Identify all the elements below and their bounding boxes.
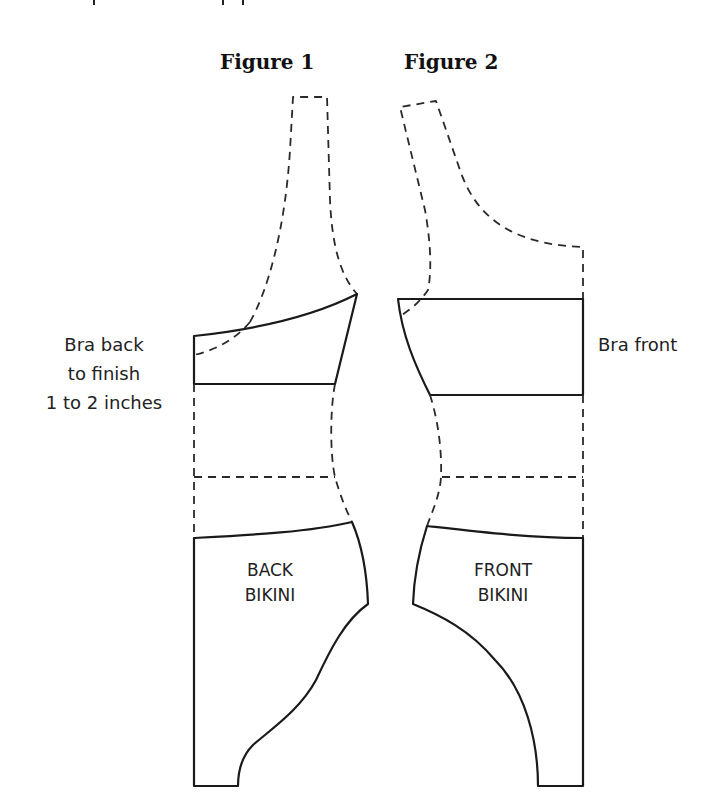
- front-bikini-label-line-1: FRONT: [458, 558, 548, 583]
- bra-back-label: Bra back to finish 1 to 2 inches: [34, 330, 174, 417]
- front-bikini-label-line-2: BIKINI: [458, 583, 548, 608]
- front-bikini-label: FRONT BIKINI: [458, 558, 548, 608]
- back-midsection-right: [331, 384, 352, 522]
- figure-1-title: Figure 1: [220, 50, 314, 74]
- figure-2-drawing: [398, 101, 583, 786]
- front-midsection-left: [427, 395, 441, 526]
- bra-back-label-line-1: Bra back: [34, 330, 174, 359]
- front-strap-outline: [400, 101, 583, 316]
- bra-front-label-line-1: Bra front: [598, 330, 677, 359]
- bra-back-label-line-3: 1 to 2 inches: [34, 388, 174, 417]
- bra-back-piece: [194, 294, 357, 384]
- bra-front-piece: [398, 299, 583, 395]
- bra-front-label: Bra front: [598, 330, 677, 359]
- back-strap-outline: [250, 97, 357, 322]
- back-bikini-label: BACK BIKINI: [225, 558, 315, 608]
- bra-back-label-line-2: to finish: [34, 359, 174, 388]
- back-bikini-label-line-1: BACK: [225, 558, 315, 583]
- back-bikini-label-line-2: BIKINI: [225, 583, 315, 608]
- back-strap-tail: [194, 322, 250, 355]
- clipped-text-fragment: [94, 0, 243, 5]
- figure-2-title: Figure 2: [404, 50, 498, 74]
- figure-1-drawing: [194, 97, 368, 786]
